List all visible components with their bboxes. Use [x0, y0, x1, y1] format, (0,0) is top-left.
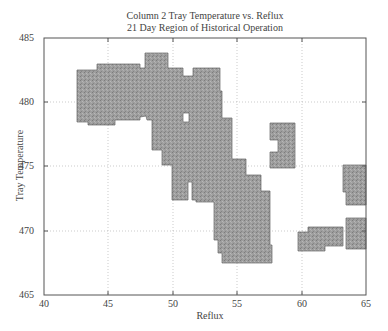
operating-regions: [77, 53, 366, 263]
y-tick-485: 485: [6, 32, 34, 43]
x-tick-40: 40: [29, 298, 59, 309]
region-58: [270, 123, 295, 168]
x-axis-label: Reflux: [180, 310, 240, 321]
x-tick-45: 45: [93, 298, 123, 309]
plot-area: [0, 0, 388, 331]
main-region: [77, 53, 272, 263]
y-axis-label: Tray Temperature: [14, 121, 25, 211]
x-tick-55: 55: [222, 298, 252, 309]
x-tick-50: 50: [158, 298, 188, 309]
x-tick-60: 60: [287, 298, 317, 309]
region-64-top: [343, 165, 366, 205]
x-tick-65: 65: [351, 298, 381, 309]
region-60-62: [298, 227, 343, 251]
y-tick-470: 470: [6, 225, 34, 236]
y-tick-480: 480: [6, 96, 34, 107]
region-64-bottom: [346, 218, 366, 249]
